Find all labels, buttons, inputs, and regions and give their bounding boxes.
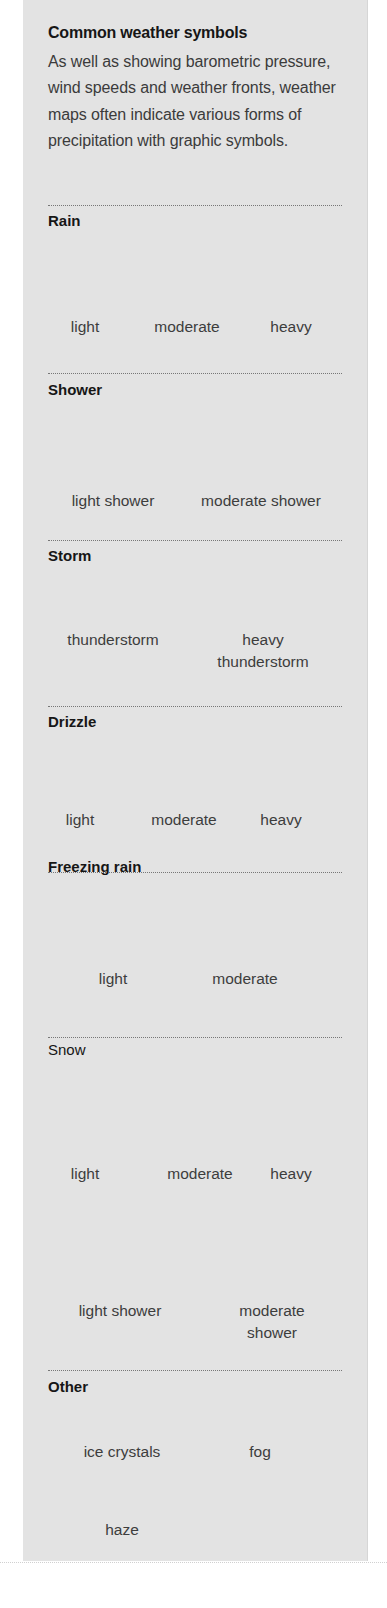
- page-divider: [0, 1562, 387, 1563]
- divider: [48, 1370, 342, 1371]
- section-heading-freezing-rain: Freezing rain: [48, 858, 141, 875]
- divider: [48, 205, 342, 206]
- label-snow-shower-light: light shower: [79, 1301, 162, 1320]
- weather-symbols-panel: [23, 0, 368, 1561]
- label-haze: haze: [105, 1520, 139, 1539]
- label-snow-light: light: [71, 1164, 99, 1183]
- section-heading-snow: Snow: [48, 1041, 86, 1058]
- label-fog: fog: [249, 1442, 271, 1461]
- label-snow-heavy: heavy: [270, 1164, 311, 1183]
- section-heading-drizzle: Drizzle: [48, 713, 96, 730]
- label-ice-crystals: ice crystals: [84, 1442, 161, 1461]
- label-snow-moderate: moderate: [167, 1164, 232, 1183]
- intro-text: As well as showing barometric pressure, …: [48, 49, 348, 155]
- section-heading-storm: Storm: [48, 547, 91, 564]
- label-snow-shower-moderate-line1: moderate: [239, 1301, 304, 1320]
- divider: [48, 706, 342, 707]
- divider: [48, 540, 342, 541]
- label-rain-heavy: heavy: [270, 317, 311, 336]
- section-heading-shower: Shower: [48, 381, 102, 398]
- divider: [48, 373, 342, 374]
- panel-title: Common weather symbols: [48, 24, 247, 42]
- label-thunderstorm: thunderstorm: [67, 630, 158, 649]
- section-heading-rain: Rain: [48, 212, 81, 229]
- label-heavy-thunderstorm-line1: heavy: [242, 630, 283, 649]
- label-freezing-rain-moderate: moderate: [212, 969, 277, 988]
- label-shower-moderate: moderate shower: [201, 491, 321, 510]
- section-heading-other: Other: [48, 1378, 88, 1395]
- label-rain-moderate: moderate: [154, 317, 219, 336]
- label-rain-light: light: [71, 317, 99, 336]
- label-freezing-rain-light: light: [99, 969, 127, 988]
- label-drizzle-heavy: heavy: [260, 810, 301, 829]
- label-drizzle-light: light: [66, 810, 94, 829]
- label-drizzle-moderate: moderate: [151, 810, 216, 829]
- divider: [48, 1037, 342, 1038]
- label-shower-light: light shower: [72, 491, 155, 510]
- label-heavy-thunderstorm-line2: thunderstorm: [217, 652, 308, 671]
- label-snow-shower-moderate-line2: shower: [247, 1323, 297, 1342]
